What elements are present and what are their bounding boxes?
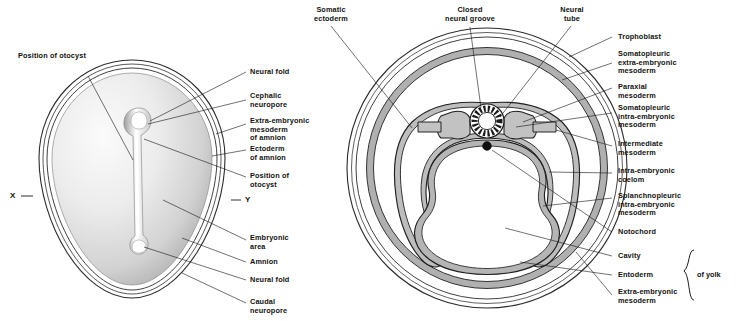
label-trophoblast: Trophoblast — [618, 33, 661, 42]
label-splanchnopleuric-intra-embryonic-mesoderm: Splanchnopleuric intra-embryonic mesoder… — [618, 192, 681, 218]
label-of-yolk: of yolk — [697, 270, 721, 279]
notochord-dot — [483, 142, 492, 151]
label-embryonic-area: Embryonic area — [250, 234, 289, 251]
label-somatic-ectoderm: Somatic ectoderm — [296, 6, 366, 23]
paraxial-mesoderm-right — [504, 111, 537, 139]
label-intermediate-mesoderm: Intermediate mesoderm — [618, 140, 663, 157]
neural-tube-lumen — [478, 112, 495, 129]
label-neural-tube: Neural tube — [544, 6, 600, 23]
caudal-neuropore-shape — [132, 240, 146, 253]
intermediate-mesoderm-left — [418, 122, 441, 132]
label-intra-embryonic-coelom: Intra-embryonic coelom — [618, 167, 675, 184]
label-ectoderm-of-amnion: Ectoderm of amnion — [250, 145, 286, 162]
paraxial-mesoderm-left — [437, 111, 470, 139]
label-extra-embryonic-mesoderm-of-amnion: Extra-embryonic mesoderm of amnion — [250, 117, 309, 143]
section-marker-y: Y — [245, 195, 250, 204]
left-embryo-drawing — [21, 60, 246, 303]
embryonic-area-shape — [52, 73, 212, 285]
intermediate-mesoderm-right — [533, 122, 556, 132]
label-neural-fold-bottom: Neural fold — [250, 276, 289, 285]
label-neural-fold-top: Neural fold — [250, 68, 289, 77]
label-closed-neural-groove: Closed neural groove — [418, 6, 522, 23]
section-marker-x: X — [10, 191, 15, 200]
label-position-of-otocyst-top: Position of otocyst — [18, 52, 86, 61]
label-amnion: Amnion — [250, 258, 278, 267]
embryology-figure: Position of otocyst Neural fold Cephalic… — [0, 0, 738, 321]
yolk-cavity — [422, 146, 552, 269]
label-notochord: Notochord — [618, 228, 656, 237]
label-position-of-otocyst: Position of otocyst — [250, 172, 289, 189]
label-entoderm: Entoderm — [618, 271, 653, 280]
yolk-brace — [684, 250, 694, 300]
label-somatopleuric-extra-embryonic-mesoderm: Somatopleuric extra-embryonic mesoderm — [618, 50, 677, 76]
label-cavity: Cavity — [618, 252, 641, 261]
label-extra-embryonic-mesoderm: Extra-embryonic mesoderm — [618, 288, 677, 305]
label-caudal-neuropore: Caudal neuropore — [250, 298, 287, 315]
label-paraxial-mesoderm: Paraxial mesoderm — [618, 83, 656, 100]
label-cephalic-neuropore: Cephalic neuropore — [250, 92, 287, 109]
cephalic-neuropore-shape — [131, 112, 147, 129]
right-section-drawing — [331, 26, 627, 308]
label-somatopleuric-intra-embryonic-mesoderm: Somatopleuric intra-embryonic mesoderm — [618, 104, 675, 130]
